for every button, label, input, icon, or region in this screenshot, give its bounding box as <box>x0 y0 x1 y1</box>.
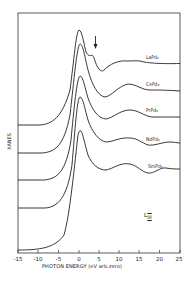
label-smpd3: SmPd₃ <box>148 163 163 169</box>
label-cepd3: CePd₃ <box>146 81 159 87</box>
x-tick-label: 10 <box>116 256 123 262</box>
x-tick-label: 25 <box>176 256 183 262</box>
x-tick-label: -15 <box>14 256 23 262</box>
x-tick-label: 15 <box>136 256 143 262</box>
xanes-chart <box>0 0 192 286</box>
x-tick-label: 5 <box>97 256 101 262</box>
x-tick-label: -5 <box>56 256 61 262</box>
x-tick-label: 0 <box>77 256 81 262</box>
x-axis-label: PHOTON ENERGY (eV arb.zero) <box>42 263 122 269</box>
plot-frame <box>18 13 180 253</box>
series-smpd3 <box>18 131 180 250</box>
edge-sub: III <box>147 214 151 220</box>
x-tick-label: -10 <box>34 256 43 262</box>
label-prpd3: PrPd₃ <box>146 107 158 113</box>
arrow-annotation <box>94 36 98 49</box>
y-axis-label: XANES <box>6 133 12 150</box>
edge-label: LIII <box>144 211 152 220</box>
label-ndpd3: NdPd₃ <box>146 136 160 142</box>
series-ndpd3 <box>18 97 180 208</box>
x-ticks <box>18 250 180 253</box>
label-lapd3: LaPd₃ <box>146 54 159 60</box>
x-tick-label: 20 <box>156 256 163 262</box>
